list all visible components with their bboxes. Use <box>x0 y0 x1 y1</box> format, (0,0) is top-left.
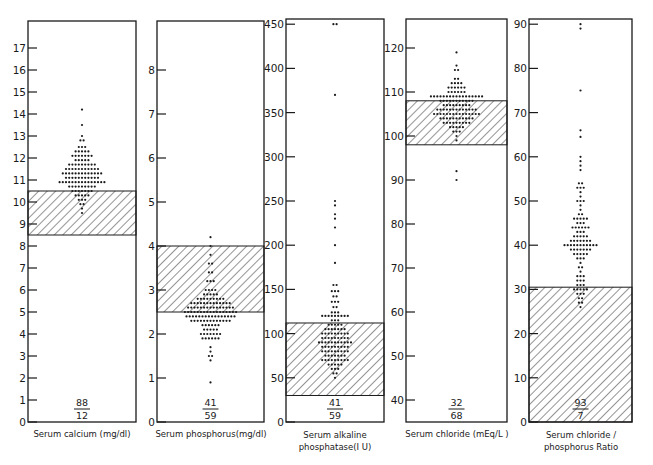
data-point <box>221 315 223 317</box>
data-point <box>576 249 578 251</box>
data-point <box>235 311 237 313</box>
data-point <box>217 324 219 326</box>
data-point <box>206 333 208 335</box>
data-point <box>455 170 457 172</box>
data-point <box>91 190 93 192</box>
data-point <box>216 333 218 335</box>
y-tick-label: 60 <box>391 306 404 318</box>
data-point <box>224 315 226 317</box>
data-point <box>81 208 83 210</box>
data-point <box>208 289 210 291</box>
y-tick-label: 70 <box>391 262 404 274</box>
data-point <box>350 341 352 343</box>
data-point <box>75 194 77 196</box>
y-tick-label: 4 <box>148 240 155 252</box>
data-point <box>324 355 326 357</box>
data-point <box>78 186 80 188</box>
data-point <box>578 266 580 268</box>
data-point <box>328 359 330 361</box>
data-point <box>579 156 581 158</box>
panel-label-line1: Serum calcium (mg/dl) <box>22 429 142 439</box>
data-point <box>184 311 186 313</box>
data-point <box>213 329 215 331</box>
data-point <box>331 341 333 343</box>
data-point <box>222 298 224 300</box>
data-point <box>331 328 333 330</box>
data-point <box>209 245 211 247</box>
data-point <box>576 240 578 242</box>
data-point <box>197 298 199 300</box>
data-point <box>455 51 457 53</box>
data-point <box>344 337 346 339</box>
data-point <box>331 355 333 357</box>
y-tick-label: 90 <box>391 174 404 186</box>
data-point <box>78 172 80 174</box>
data-point <box>468 104 470 106</box>
data-point <box>337 333 339 335</box>
data-point <box>334 359 336 361</box>
data-point <box>94 186 96 188</box>
data-point <box>455 109 457 111</box>
data-point <box>459 109 461 111</box>
data-point <box>78 164 80 166</box>
data-point <box>337 346 339 348</box>
data-point <box>97 172 99 174</box>
data-point <box>232 307 234 309</box>
data-point <box>81 146 83 148</box>
data-point <box>187 307 189 309</box>
data-point <box>75 168 77 170</box>
data-point <box>81 164 83 166</box>
y-tick-label: 200 <box>264 239 284 251</box>
data-point <box>468 117 470 119</box>
data-point <box>94 172 96 174</box>
data-point <box>462 95 464 97</box>
data-point <box>81 150 83 152</box>
data-point <box>452 122 454 124</box>
data-point <box>344 346 346 348</box>
data-point <box>211 315 213 317</box>
data-point <box>332 306 334 308</box>
data-point <box>471 109 473 111</box>
data-point <box>87 168 89 170</box>
y-tick-label: 6 <box>148 152 155 164</box>
data-point <box>573 253 575 255</box>
data-point <box>222 320 224 322</box>
y-tick-label: 5 <box>148 196 155 208</box>
data-point <box>337 355 339 357</box>
data-point <box>455 100 457 102</box>
y-tick-label: 40 <box>391 394 404 406</box>
fraction-denominator: 68 <box>450 410 462 421</box>
data-point <box>331 290 333 292</box>
y-tick-label: 7 <box>19 262 26 274</box>
data-point <box>187 311 189 313</box>
data-point <box>589 249 591 251</box>
fraction-denominator: 12 <box>76 410 88 421</box>
data-point <box>324 346 326 348</box>
data-point <box>340 333 342 335</box>
data-point <box>219 333 221 335</box>
data-point <box>81 177 83 179</box>
y-tick-label: 400 <box>264 62 284 74</box>
data-point <box>71 155 73 157</box>
data-point <box>347 333 349 335</box>
data-point <box>334 290 336 292</box>
data-point <box>318 341 320 343</box>
data-point <box>447 87 449 89</box>
data-point <box>579 279 581 281</box>
data-point <box>455 122 457 124</box>
data-point <box>455 113 457 115</box>
data-point <box>336 306 338 308</box>
data-point <box>579 129 581 131</box>
data-point <box>209 329 211 331</box>
y-tick-label: 100 <box>264 328 284 340</box>
data-point <box>331 346 333 348</box>
data-point <box>340 337 342 339</box>
data-point <box>65 168 67 170</box>
data-point <box>336 284 338 286</box>
data-point <box>465 122 467 124</box>
data-point <box>87 155 89 157</box>
data-point <box>583 249 585 251</box>
panel-label-line1: Serum alkaline <box>276 429 394 441</box>
panel-label-phosphorus: Serum phosphorus(mg/dl) <box>150 429 272 439</box>
y-tick-label: 6 <box>19 284 26 296</box>
